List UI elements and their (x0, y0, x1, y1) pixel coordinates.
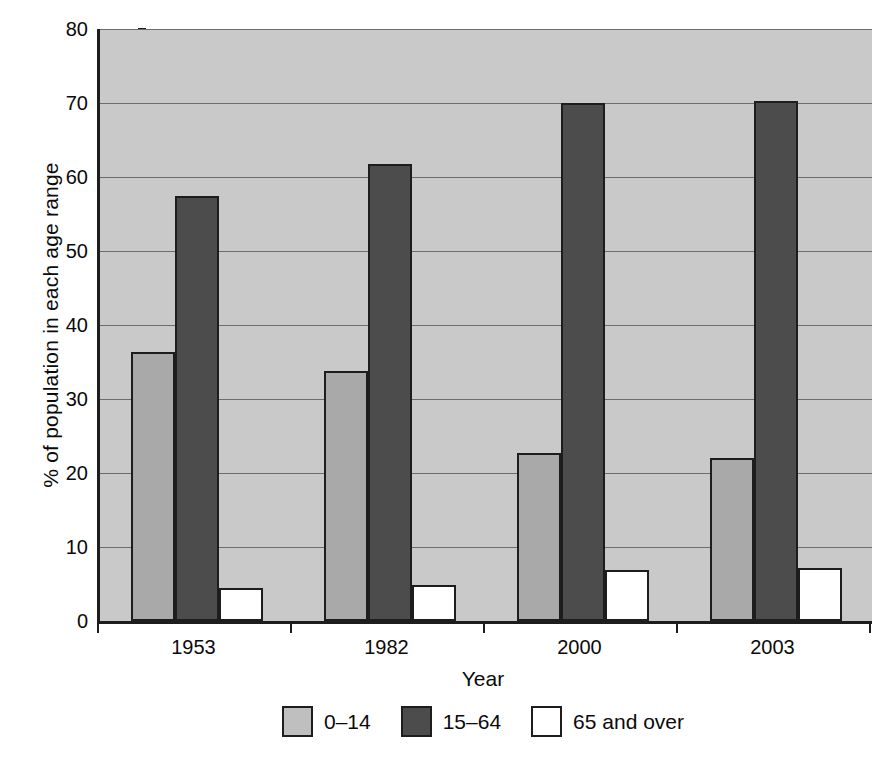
y-axis-tick-label: 30 (66, 388, 88, 411)
x-axis-tickmark (676, 622, 678, 633)
legend-label: 65 and over (573, 710, 684, 734)
x-axis-ticklabels: 1953198220002003 (97, 636, 869, 664)
x-axis-tick-label: 2000 (557, 636, 602, 659)
bar (710, 458, 754, 621)
plot-area (97, 29, 872, 624)
x-axis-tickmarks (97, 622, 872, 634)
bar (412, 585, 456, 621)
y-axis-tick-label: 20 (66, 462, 88, 485)
x-axis-tick-label: 1953 (171, 636, 216, 659)
x-axis-title: Year (97, 667, 869, 691)
bar (754, 101, 798, 621)
chart-legend: 0–1415–6465 and over (97, 706, 869, 737)
x-axis-tick-label: 1982 (364, 636, 409, 659)
bar (798, 568, 842, 621)
y-axis-tick-label: 0 (77, 610, 88, 633)
bar (131, 352, 175, 621)
y-axis-ticks: 01020304050607080 (48, 29, 88, 621)
y-axis-tick-label: 40 (66, 314, 88, 337)
y-axis-tick-label: 80 (66, 18, 88, 41)
legend-label: 15–64 (443, 710, 501, 734)
x-axis-tickmark (869, 622, 871, 633)
legend-label: 0–14 (324, 710, 371, 734)
legend-swatch-65-and-over (531, 706, 562, 737)
bar (324, 371, 368, 621)
y-axis-tick-label: 70 (66, 92, 88, 115)
bar (517, 453, 561, 621)
x-axis-tickmark (483, 622, 485, 633)
legend-item: 0–14 (282, 706, 371, 737)
legend-swatch-15-64 (401, 706, 432, 737)
legend-item: 15–64 (401, 706, 501, 737)
bar-chart: % of population in each age range 010203… (0, 0, 895, 766)
bar-group (100, 29, 293, 621)
x-axis-tickmark (290, 622, 292, 633)
bar (605, 570, 649, 621)
x-axis-tickmark (97, 622, 99, 633)
y-axis-tick-label: 60 (66, 166, 88, 189)
x-axis-tick-label: 2003 (750, 636, 795, 659)
legend-swatch-0-14 (282, 706, 313, 737)
bar-group (679, 29, 872, 621)
bar (368, 164, 412, 621)
y-axis-tick-label: 50 (66, 240, 88, 263)
legend-item: 65 and over (531, 706, 684, 737)
bar-group (486, 29, 679, 621)
y-axis-tick-label: 10 (66, 536, 88, 559)
bars-layer (100, 29, 872, 621)
bar (219, 588, 263, 621)
bar (175, 196, 219, 621)
bar (561, 103, 605, 621)
bar-group (293, 29, 486, 621)
